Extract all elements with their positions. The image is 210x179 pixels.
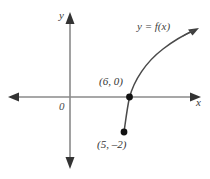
y-axis-bottom-arrowhead: [66, 157, 75, 169]
y-axis-label: y: [59, 10, 64, 21]
x-axis-left-arrowhead: [8, 93, 19, 102]
point-dot-endpoint: [121, 129, 128, 136]
function-curve: [124, 30, 195, 132]
y-axis-top-arrowhead: [66, 12, 75, 24]
origin-label: 0: [59, 101, 65, 112]
point-label-endpoint: (5, –2): [97, 139, 126, 150]
point-label-x-intercept: (6, 0): [99, 76, 123, 87]
graph-canvas: [0, 0, 210, 179]
point-dot-x-intercept: [126, 94, 133, 101]
graph-figure: y x 0 (6, 0) (5, –2) y = f(x): [0, 0, 210, 179]
function-label: y = f(x): [137, 21, 170, 32]
x-axis-label: x: [196, 97, 201, 108]
